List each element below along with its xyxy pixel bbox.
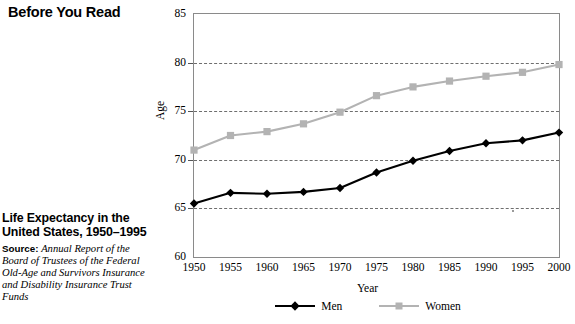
line-chart: Age 606570758085 19501955196019651970197… xyxy=(160,0,575,324)
series-women xyxy=(190,61,562,154)
gray-square-marker-icon xyxy=(378,300,420,312)
x-axis-label: Year xyxy=(160,282,575,294)
series-line-men xyxy=(194,133,559,204)
data-point-men-1985 xyxy=(445,147,453,155)
chart-legend: Men Women xyxy=(160,300,575,312)
series-men xyxy=(190,128,563,207)
data-point-men-1980 xyxy=(409,157,417,165)
data-point-women-2000 xyxy=(555,61,562,68)
legend-item-men: Men xyxy=(274,300,342,312)
data-point-women-1980 xyxy=(409,83,416,90)
data-point-women-1985 xyxy=(446,77,453,84)
data-point-women-1990 xyxy=(482,73,489,80)
y-tick-label-65: 65 xyxy=(160,202,186,214)
data-point-men-1955 xyxy=(226,189,234,197)
x-tick-label-2000: 2000 xyxy=(536,262,575,274)
print-speck-artifact xyxy=(512,210,514,212)
data-point-men-1960 xyxy=(263,190,271,198)
y-tick-label-85: 85 xyxy=(160,8,186,20)
data-point-men-1990 xyxy=(482,139,490,147)
data-point-women-1995 xyxy=(519,69,526,76)
y-tick-label-70: 70 xyxy=(160,154,186,166)
data-point-women-1950 xyxy=(190,146,197,153)
data-point-women-1960 xyxy=(263,128,270,135)
plot-area xyxy=(193,13,560,258)
legend-item-women: Women xyxy=(378,300,460,312)
data-point-women-1955 xyxy=(227,132,234,139)
figure-title: Life Expectancy in the United States, 19… xyxy=(2,212,158,239)
data-point-men-1995 xyxy=(518,136,526,144)
data-point-women-1970 xyxy=(336,109,343,116)
data-point-men-1975 xyxy=(372,168,380,176)
data-point-men-2000 xyxy=(555,128,563,136)
data-point-men-1965 xyxy=(299,188,307,196)
sidebar: Before You Read Life Expectancy in the U… xyxy=(0,0,160,324)
data-point-men-1970 xyxy=(336,184,344,192)
section-kicker: Before You Read xyxy=(8,4,121,20)
y-tick-label-80: 80 xyxy=(160,57,186,69)
figure-caption-block: Life Expectancy in the United States, 19… xyxy=(2,212,158,303)
y-tick-label-75: 75 xyxy=(160,105,186,117)
data-point-men-1950 xyxy=(190,199,198,207)
series-line-women xyxy=(194,65,559,151)
black-diamond-marker-icon xyxy=(274,300,316,312)
data-point-women-1975 xyxy=(373,92,380,99)
source-label: Source: xyxy=(2,243,38,254)
legend-label-women: Women xyxy=(425,300,460,312)
series-layer xyxy=(194,14,559,257)
figure-source: Source: Annual Report of the Board of Tr… xyxy=(2,243,158,303)
data-point-women-1965 xyxy=(300,120,307,127)
legend-label-men: Men xyxy=(321,300,342,312)
